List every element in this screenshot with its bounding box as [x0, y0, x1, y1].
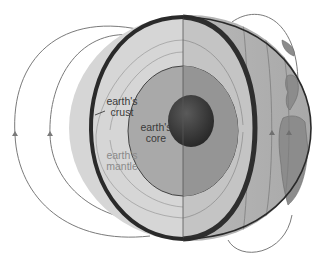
- arrow-up-icon: [47, 131, 53, 136]
- label-earths-core: earth's core: [138, 122, 174, 144]
- earth-sphere: [69, 15, 311, 241]
- label-crust-line2: crust: [102, 107, 142, 118]
- arrow-up-icon: [12, 131, 18, 136]
- label-earths-crust: earth's crust: [102, 96, 142, 118]
- label-mantle-line2: mantle: [102, 161, 142, 172]
- label-core-line2: core: [138, 133, 174, 144]
- inner-core: [168, 95, 214, 147]
- label-earths-mantle: earth's mantle: [102, 150, 142, 172]
